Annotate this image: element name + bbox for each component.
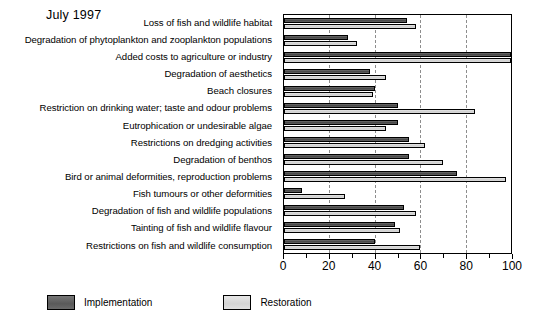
bar-restoration [284, 58, 511, 63]
bar-implementation [284, 188, 302, 193]
category-label: Bird or animal deformities, reproduction… [0, 168, 278, 185]
bar-implementation [284, 18, 407, 23]
legend-item-restoration: Restoration [223, 295, 311, 310]
legend-swatch-implementation-icon [47, 295, 75, 310]
bar-row [284, 100, 511, 117]
bar-row [284, 202, 511, 219]
axis-tick [443, 254, 444, 258]
axis-tick [398, 254, 399, 258]
bar-implementation [284, 120, 398, 125]
bar-implementation [284, 171, 457, 176]
category-label: Loss of fish and wildlife habitat [0, 14, 278, 31]
bar-restoration [284, 41, 357, 46]
bar-row [284, 236, 511, 253]
bar-row [284, 151, 511, 168]
axis-tick [352, 254, 353, 258]
bar-restoration [284, 109, 475, 114]
bar-row [284, 32, 511, 49]
bar-implementation [284, 239, 375, 244]
category-label: Degradation of aesthetics [0, 65, 278, 82]
bar-restoration [284, 228, 400, 233]
x-axis-tick-labels: 020406080100 [283, 259, 512, 275]
bar-restoration [284, 75, 386, 80]
category-label: Degradation of phytoplankton and zooplan… [0, 31, 278, 48]
category-label: Fish tumours or other deformities [0, 185, 278, 202]
bar-rows [284, 15, 511, 253]
chart-legend: Implementation Restoration [47, 295, 312, 310]
bar-implementation [284, 35, 348, 40]
bar-row [284, 117, 511, 134]
bar-restoration [284, 211, 416, 216]
category-label: Degradation of fish and wildlife populat… [0, 203, 278, 220]
chart-figure: July 1997 Loss of fish and wildlife habi… [0, 0, 533, 326]
legend-item-implementation: Implementation [47, 295, 152, 310]
bar-row [284, 219, 511, 236]
axis-tick [489, 254, 490, 258]
x-tick-label: 100 [502, 259, 522, 273]
bar-implementation [284, 86, 375, 91]
category-label: Restriction on drinking water; taste and… [0, 100, 278, 117]
bar-row [284, 83, 511, 100]
x-tick-label: 80 [460, 259, 473, 273]
category-axis-labels: Loss of fish and wildlife habitatDegrada… [0, 14, 278, 254]
bar-restoration [284, 24, 416, 29]
bar-implementation [284, 154, 409, 159]
x-tick-label: 0 [280, 259, 287, 273]
bar-restoration [284, 126, 386, 131]
bar-row [284, 168, 511, 185]
bar-row [284, 49, 511, 66]
category-label: Restrictions on dredging activities [0, 134, 278, 151]
x-tick-label: 40 [368, 259, 381, 273]
bar-row [284, 185, 511, 202]
bar-restoration [284, 245, 420, 250]
category-label: Eutrophication or undesirable algae [0, 117, 278, 134]
x-tick-label: 20 [322, 259, 335, 273]
category-label: Added costs to agriculture or industry [0, 48, 278, 65]
category-label: Tainting of fish and wildlife flavour [0, 220, 278, 237]
legend-label-implementation: Implementation [84, 297, 152, 308]
axis-tick [306, 254, 307, 258]
bar-row [284, 66, 511, 83]
bar-restoration [284, 143, 425, 148]
bar-restoration [284, 177, 506, 182]
bar-row [284, 134, 511, 151]
bar-implementation [284, 137, 409, 142]
category-label: Restrictions on fish and wildlife consum… [0, 237, 278, 254]
legend-label-restoration: Restoration [260, 297, 311, 308]
bar-implementation [284, 222, 395, 227]
legend-swatch-restoration-icon [223, 295, 251, 310]
bar-implementation [284, 103, 398, 108]
bar-restoration [284, 160, 443, 165]
bar-implementation [284, 205, 404, 210]
bar-restoration [284, 92, 373, 97]
category-label: Degradation of benthos [0, 151, 278, 168]
x-tick-label: 60 [414, 259, 427, 273]
bar-row [284, 15, 511, 32]
bar-implementation [284, 52, 511, 57]
bar-implementation [284, 69, 370, 74]
bar-restoration [284, 194, 345, 199]
category-label: Beach closures [0, 83, 278, 100]
plot-area [283, 14, 512, 254]
